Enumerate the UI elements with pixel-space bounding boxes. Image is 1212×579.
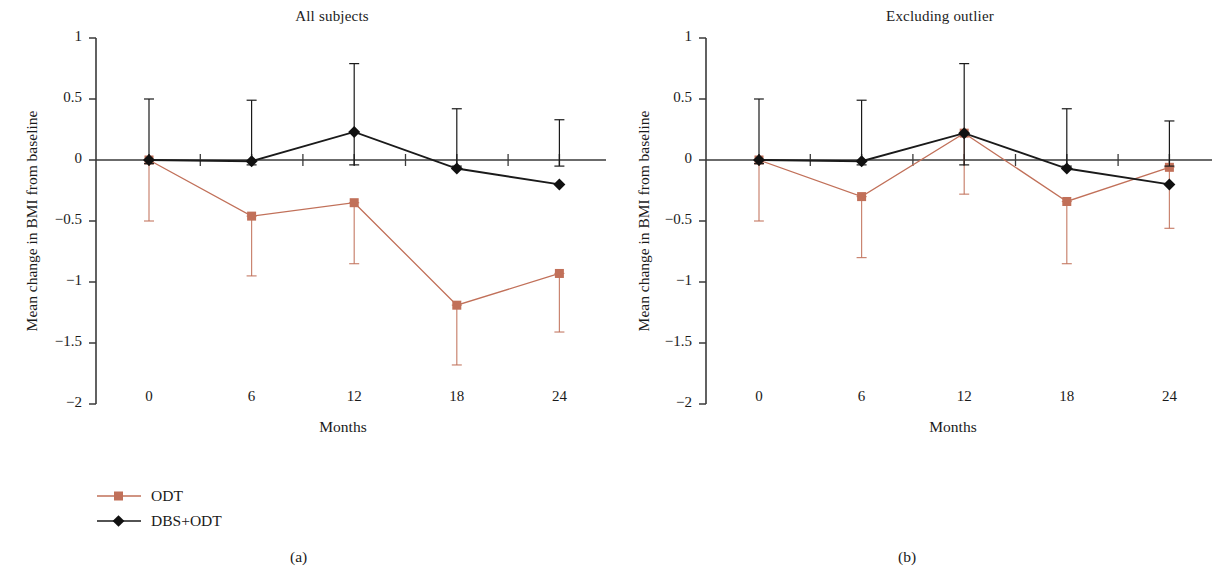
y-tick-label: 1: [638, 28, 692, 45]
panel-a-plot-area: 10.50−0.5−1−1.5−206121824: [0, 0, 606, 460]
y-tick-label: 0.5: [28, 89, 82, 106]
panel-b-x-axis-label: Months: [606, 418, 1212, 436]
x-tick-label: 6: [232, 388, 272, 405]
diamond-marker: [96, 514, 142, 528]
legend-item-dbs-odt: DBS+ODT: [96, 508, 222, 533]
y-tick-label: −2: [638, 394, 692, 411]
y-tick-label: 0.5: [638, 89, 692, 106]
x-tick-label: 0: [129, 388, 169, 405]
x-tick-label: 24: [539, 388, 579, 405]
x-tick-label: 0: [739, 388, 779, 405]
y-tick-label: 0: [28, 150, 82, 167]
x-tick-label: 12: [944, 388, 984, 405]
y-tick-label: −1: [638, 272, 692, 289]
figure-container: All subjects Mean change in BMI from bas…: [0, 0, 1212, 579]
panel-a-x-axis-label: Months: [0, 418, 606, 436]
legend-label-dbs-odt: DBS+ODT: [151, 513, 222, 529]
panel-b-subcaption: (b): [898, 548, 916, 566]
y-tick-label: 1: [28, 28, 82, 45]
y-tick-label: −1.5: [28, 333, 82, 350]
panel-b-chart-svg: [606, 0, 1212, 460]
x-tick-label: 18: [1047, 388, 1087, 405]
panel-b-plot-area: 10.50−0.5−1−1.5−206121824: [606, 0, 1212, 460]
y-tick-label: −1: [28, 272, 82, 289]
y-tick-label: −1.5: [638, 333, 692, 350]
legend-label-odt: ODT: [151, 488, 183, 504]
y-tick-label: −2: [28, 394, 82, 411]
x-tick-label: 6: [842, 388, 882, 405]
x-tick-label: 12: [334, 388, 374, 405]
y-tick-label: −0.5: [28, 211, 82, 228]
x-tick-label: 18: [437, 388, 477, 405]
panel-a-subcaption: (a): [290, 548, 307, 566]
y-tick-label: 0: [638, 150, 692, 167]
panel-a-legend: ODT DBS+ODT: [96, 483, 222, 533]
square-marker: [96, 489, 142, 503]
y-tick-label: −0.5: [638, 211, 692, 228]
panel-b: Excluding outlier Mean change in BMI fro…: [606, 0, 1212, 579]
panel-a: All subjects Mean change in BMI from bas…: [0, 0, 606, 579]
legend-item-odt: ODT: [96, 483, 222, 508]
panel-a-chart-svg: [0, 0, 606, 460]
x-tick-label: 24: [1149, 388, 1189, 405]
